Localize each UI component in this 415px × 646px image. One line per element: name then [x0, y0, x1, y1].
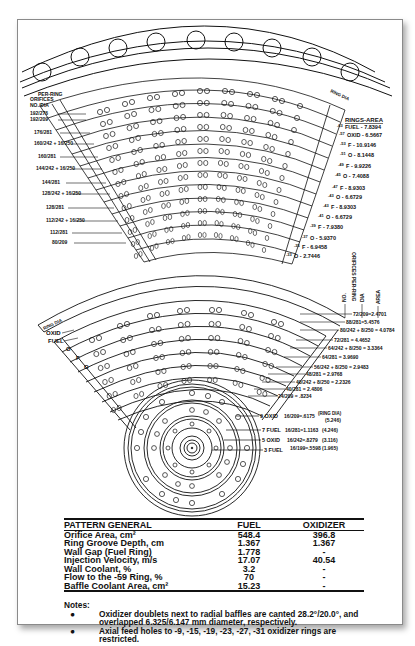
svg-text:(1.965): (1.965) — [322, 445, 338, 451]
core-labels: (RING DIA) 9 OXID 16/209=.6175 (5.246) 7… — [212, 411, 342, 453]
svg-text:FUEL: FUEL — [48, 338, 64, 344]
upper-right-labels: RING DIA RINGS-AREA FUEL - 7.8394 OXID -… — [286, 88, 384, 259]
svg-text:-41: -41 — [318, 213, 325, 218]
svg-text:40/242 + 8/250 = 2.2326: 40/242 + 8/250 = 2.2326 — [296, 379, 351, 385]
svg-text:192/209: 192/209 — [30, 116, 48, 122]
svg-text:F - 9.9226: F - 9.9226 — [346, 163, 371, 169]
svg-text:144/281: 144/281 — [42, 179, 60, 185]
svg-text:-43: -43 — [323, 203, 330, 208]
bolt-hole-icon — [33, 63, 51, 81]
svg-text:112/281: 112/281 — [50, 229, 68, 235]
svg-text:7 FUEL: 7 FUEL — [262, 427, 282, 433]
notes-section: Notes: ● Oxidizer doublets next to radia… — [64, 601, 364, 644]
svg-text:NO./DIA: NO./DIA — [30, 102, 49, 108]
pattern-general-table: PATTERN GENERAL FUEL OXIDIZER Orifice Ar… — [64, 518, 364, 592]
bolt-hole-icon — [187, 31, 205, 49]
svg-text:64/281 = 3.9690: 64/281 = 3.9690 — [322, 354, 359, 360]
svg-text:-33: -33 — [286, 252, 293, 257]
svg-text:16/242=.8279: 16/242=.8279 — [287, 437, 318, 443]
svg-text:40/281 = 2.4806: 40/281 = 2.4806 — [286, 386, 323, 392]
svg-text:(3.116): (3.116) — [322, 437, 338, 443]
upper-sector-rings — [40, 78, 345, 264]
svg-text:(RING DIA): (RING DIA) — [318, 411, 342, 416]
svg-text:56/242 + 8/250 = 2.9483: 56/242 + 8/250 = 2.9483 — [314, 364, 369, 370]
svg-text:9 OXID: 9 OXID — [260, 413, 278, 419]
bullet-icon: ● — [64, 610, 99, 627]
outer-ring-band — [20, 26, 392, 96]
svg-text:(4.246): (4.246) — [322, 427, 338, 433]
bolt-hole-icon — [109, 39, 127, 57]
svg-text:176/281: 176/281 — [34, 129, 52, 135]
bolt-hole-icon — [147, 33, 165, 51]
svg-text:O - 6.6729: O - 6.6729 — [336, 194, 362, 200]
svg-text:-57: -57 — [339, 131, 346, 136]
svg-text:128/281: 128/281 — [46, 204, 64, 210]
svg-text:OXID: OXID — [46, 330, 61, 336]
svg-text:144/242 + 16/250: 144/242 + 16/250 — [36, 165, 75, 171]
bolt-hole-icon — [71, 48, 89, 66]
svg-text:RING DIA: RING DIA — [330, 88, 351, 101]
core-disc — [124, 380, 260, 516]
header-pattern-general: PATTERN GENERAL — [64, 521, 214, 530]
svg-text:F - 10.9146: F - 10.9146 — [348, 142, 376, 148]
svg-text:AREA: AREA — [375, 289, 381, 304]
svg-text:-47: -47 — [332, 184, 339, 189]
svg-text:80/242 + 8/250 = 4.0784: 80/242 + 8/250 = 4.0784 — [340, 327, 395, 333]
svg-text:ORIFICES PER-RING: ORIFICES PER-RING — [351, 252, 357, 302]
svg-text:-53: -53 — [340, 141, 347, 146]
svg-text:88/281=5.4576: 88/281=5.4576 — [346, 319, 380, 325]
svg-text:-35: -35 — [294, 243, 301, 248]
svg-text:-39: -39 — [310, 223, 317, 228]
svg-text:16/281=1.1163: 16/281=1.1163 — [285, 427, 318, 433]
svg-text:F - 7.9380: F - 7.9380 — [318, 224, 343, 230]
svg-text:48/281 = 2.9768: 48/281 = 2.9768 — [306, 371, 343, 377]
svg-text:O - 5.9370: O - 5.9370 — [310, 235, 336, 241]
svg-text:O: O — [84, 364, 89, 370]
svg-text:O - 8.1448: O - 8.1448 — [348, 152, 374, 158]
table-row: Baffle Coolant Area, cm² 15.23 - — [64, 582, 364, 593]
svg-text:160/281: 160/281 — [38, 153, 56, 159]
svg-text:O - 2.7446: O - 2.7446 — [294, 253, 320, 259]
upper-left-labels: PER-RING ORIFICES NO./DIA 192/276 192/20… — [30, 91, 126, 245]
svg-text:F: F — [76, 355, 80, 361]
svg-text:F - 8.9303: F - 8.9303 — [331, 204, 356, 210]
svg-text:-51: -51 — [340, 151, 347, 156]
note-item: ● Axial feed holes to -9, -15, -19, -23,… — [64, 627, 364, 644]
svg-text:FUEL - 7.8394: FUEL - 7.8394 — [345, 124, 382, 130]
header-oxidizer: OXIDIZER — [284, 521, 364, 530]
svg-text:(5.246): (5.246) — [325, 417, 341, 423]
svg-text:-45: -45 — [335, 172, 342, 177]
svg-text:NO.: NO. — [341, 293, 347, 303]
svg-text:-43: -43 — [328, 193, 335, 198]
svg-text:-49: -49 — [338, 162, 345, 167]
svg-text:5 OXID: 5 OXID — [262, 437, 280, 443]
svg-text:O - 6.6729: O - 6.6729 — [326, 214, 352, 220]
svg-text:160/242 + 16/250: 160/242 + 16/250 — [34, 140, 73, 146]
svg-text:OXID - 6.5667: OXID - 6.5667 — [347, 132, 382, 138]
svg-text:80/209: 80/209 — [52, 239, 68, 245]
svg-text:O - 7.4088: O - 7.4088 — [343, 173, 369, 179]
svg-text:F - 8.9303: F - 8.9303 — [340, 185, 365, 191]
svg-text:3 FUEL: 3 FUEL — [264, 447, 284, 453]
svg-text:RINGS-AREA: RINGS-AREA — [345, 117, 384, 123]
svg-text:16/199=.5598: 16/199=.5598 — [290, 445, 321, 451]
svg-text:128/242 + 16/250: 128/242 + 16/250 — [42, 190, 81, 196]
bullet-icon: ● — [64, 627, 99, 644]
svg-text:64/242 + 8/250 = 3.3364: 64/242 + 8/250 = 3.3364 — [328, 345, 383, 351]
per-ring-header: ORIFICES PER-RING NO. DIA AREA — [341, 252, 381, 318]
svg-text:-63: -63 — [337, 123, 344, 128]
header-fuel: FUEL — [214, 521, 284, 530]
svg-text:DIA: DIA — [359, 293, 365, 302]
table-header: PATTERN GENERAL FUEL OXIDIZER — [64, 518, 364, 531]
svg-text:112/242 + 16/250: 112/242 + 16/250 — [46, 217, 85, 223]
svg-text:RING DIA: RING DIA — [42, 317, 63, 330]
svg-text:72/209=2.4701: 72/209=2.4701 — [353, 311, 387, 317]
svg-text:72/281 = 4.4652: 72/281 = 4.4652 — [334, 337, 371, 343]
note-item: ● Oxidizer doublets next to radial baffl… — [64, 610, 364, 627]
svg-text:16/209=.6175: 16/209=.6175 — [284, 413, 315, 419]
svg-text:-37: -37 — [302, 234, 309, 239]
svg-text:24/209 = .8234: 24/209 = .8234 — [278, 393, 312, 399]
svg-text:O: O — [66, 346, 71, 352]
lower-sector-rings — [38, 276, 345, 430]
svg-text:F - 6.9458: F - 6.9458 — [302, 244, 327, 250]
